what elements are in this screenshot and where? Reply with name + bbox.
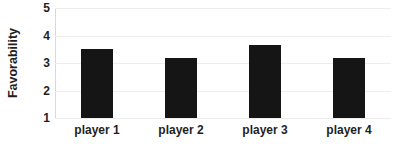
bar [165, 58, 197, 119]
bar-chart: Favorability 12345 player 1player 2playe… [0, 0, 399, 151]
y-axis-tick-label: 4 [30, 30, 50, 42]
y-axis-tick-label: 2 [30, 85, 50, 97]
x-axis-tick-label: player 1 [74, 124, 119, 137]
bar [81, 49, 113, 118]
y-axis-title: Favorability [0, 0, 26, 126]
gridline [55, 8, 391, 9]
y-axis-tick-labels: 12345 [28, 0, 50, 126]
bar [333, 58, 365, 119]
y-axis-tick-label: 5 [30, 2, 50, 14]
y-axis-tick-label: 3 [30, 57, 50, 69]
plot-area [55, 8, 391, 118]
gridline [55, 36, 391, 37]
bar [249, 45, 281, 118]
y-axis-tick-label: 1 [30, 112, 50, 124]
x-axis-tick-label: player 3 [242, 124, 287, 137]
gridline [55, 118, 391, 119]
x-axis-tick-labels: player 1player 2player 3player 4 [55, 121, 391, 147]
y-axis-title-text: Favorability [6, 28, 20, 98]
x-axis-tick-label: player 2 [158, 124, 203, 137]
x-axis-tick-label: player 4 [326, 124, 371, 137]
